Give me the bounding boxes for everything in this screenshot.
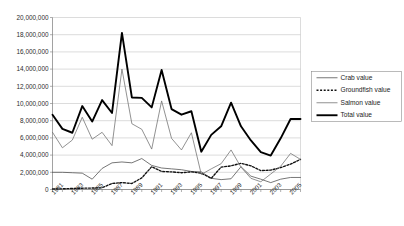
legend-label: Crab value — [341, 74, 373, 81]
y-axis-tick-label: 6,000,000 — [20, 134, 49, 141]
x-axis-tick-label: 1999 — [228, 181, 243, 196]
y-axis-tick-label: 2,000,000 — [20, 169, 49, 176]
x-axis-tick-label: 1997 — [208, 181, 223, 196]
data-series-group — [53, 33, 301, 189]
x-axis-tick-label: 1991 — [149, 181, 164, 196]
line-chart: 02,000,0004,000,0006,000,0008,000,00010,… — [0, 0, 404, 226]
y-axis-tick-label: 20,000,000 — [17, 14, 49, 21]
chart-container: 02,000,0004,000,0006,000,0008,000,00010,… — [0, 0, 404, 226]
y-axis — [50, 18, 53, 190]
y-axis-tick-label: 16,000,000 — [17, 48, 49, 55]
legend-label: Groundfish value — [341, 86, 391, 93]
y-tick-labels: 02,000,0004,000,0006,000,0008,000,00010,… — [17, 14, 49, 193]
x-axis-tick-label: 2001 — [248, 181, 263, 196]
series-line-total-value — [53, 33, 301, 156]
x-tick-labels: 1981198319851987198919911993199519971999… — [50, 181, 303, 196]
series-line-salmon-value — [53, 69, 301, 182]
x-axis-tick-label: 2003 — [268, 181, 283, 196]
grid-lines — [53, 18, 301, 190]
y-axis-tick-label: 18,000,000 — [17, 31, 49, 38]
x-axis-tick-label: 1993 — [169, 181, 184, 196]
y-axis-tick-label: 10,000,000 — [17, 100, 49, 107]
y-axis-tick-label: 8,000,000 — [20, 117, 49, 124]
legend-label: Salmon value — [341, 99, 381, 106]
x-axis-tick-label: 1995 — [189, 181, 204, 196]
y-axis-tick-label: 4,000,000 — [20, 151, 49, 158]
chart-legend: Crab valueGroundfish valueSalmon valueTo… — [312, 72, 402, 122]
legend-label: Total value — [341, 111, 373, 118]
y-axis-tick-label: 0 — [45, 186, 49, 193]
y-axis-tick-label: 14,000,000 — [17, 65, 49, 72]
x-axis-tick-label: 1981 — [50, 181, 65, 196]
y-axis-tick-label: 12,000,000 — [17, 83, 49, 90]
